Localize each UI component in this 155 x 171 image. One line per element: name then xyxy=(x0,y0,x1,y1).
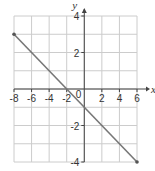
endpoint-dot xyxy=(135,160,139,164)
x-tick-label: -8 xyxy=(10,93,19,104)
y-tick-label: 4 xyxy=(74,11,80,22)
y-axis-arrow-icon xyxy=(82,8,87,13)
y-tick-label: 2 xyxy=(74,48,80,59)
origin-label: 0 xyxy=(76,89,82,100)
x-tick-label: -4 xyxy=(45,93,54,104)
y-axis-label: y xyxy=(71,0,77,11)
x-tick-label: -6 xyxy=(27,93,36,104)
y-tick-label: -4 xyxy=(70,157,79,168)
x-axis-arrow-icon xyxy=(146,87,150,92)
y-tick-label: -2 xyxy=(70,121,79,132)
endpoint-dot xyxy=(12,32,16,36)
line-graph: -8-6-4-224642-2-40xy xyxy=(0,0,155,171)
x-tick-label: -2 xyxy=(62,93,71,104)
x-tick-label: 2 xyxy=(99,93,105,104)
x-tick-label: 6 xyxy=(134,93,140,104)
x-axis-label: x xyxy=(150,83,155,95)
axes xyxy=(14,8,150,162)
x-tick-label: 4 xyxy=(117,93,123,104)
